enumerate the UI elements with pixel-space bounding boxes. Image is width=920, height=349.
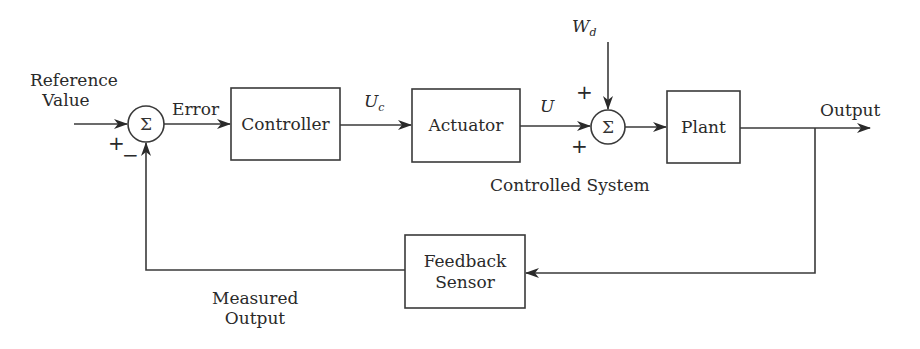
sigma-icon-2: Σ — [591, 110, 625, 144]
wd-label: Wd — [572, 16, 597, 43]
plant-label: Plant — [667, 91, 740, 163]
feedback-sensor-line1: Feedback — [424, 251, 507, 272]
reference-label-line1: Reference — [30, 70, 102, 90]
sigma-icon-1: Σ — [128, 106, 164, 142]
measured-output-label: Measured Output — [212, 288, 298, 328]
reference-label-line2: Value — [30, 90, 102, 110]
reference-value-label: Reference Value — [30, 70, 102, 110]
controlled-system-label: Controlled System — [490, 175, 650, 195]
error-label: Error — [172, 99, 219, 119]
actuator-label: Actuator — [412, 89, 520, 162]
controller-label: Controller — [231, 88, 340, 160]
feedback-path-left — [146, 143, 405, 270]
output-label: Output — [820, 100, 880, 120]
uc-sub: c — [378, 101, 384, 114]
wd-main: W — [572, 16, 589, 36]
wd-sub: d — [589, 26, 596, 39]
feedback-sensor-label: Feedback Sensor — [405, 235, 525, 308]
sum2-bottom-plus-sign: + — [571, 136, 588, 156]
uc-label: Uc — [364, 91, 385, 118]
sum2-top-plus-sign: + — [576, 82, 593, 102]
measured-label-line1: Measured — [212, 288, 298, 308]
uc-main: U — [364, 91, 378, 111]
u-label: U — [540, 96, 554, 116]
feedback-sensor-line2: Sensor — [435, 272, 495, 293]
sum1-minus-sign: − — [122, 145, 139, 165]
measured-label-line2: Output — [212, 308, 298, 328]
